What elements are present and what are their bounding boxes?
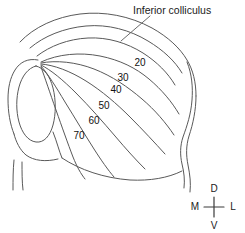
ventromedial-tail — [22, 162, 23, 190]
contour-label-70: 70 — [73, 130, 85, 141]
contour-label-30: 30 — [117, 72, 129, 83]
compass-label-dorsal: D — [210, 183, 217, 194]
contour-label-40: 40 — [110, 84, 122, 95]
nucleus-oval — [17, 66, 56, 142]
dorsal-nested-arcs-group — [30, 26, 182, 85]
contour-label-50: 50 — [98, 100, 110, 111]
nucleus-ventral-connector — [53, 132, 62, 158]
contour-label-20: 20 — [134, 57, 146, 68]
orientation-compass: D V M L — [191, 183, 236, 231]
figure-canvas: Inferior colliculus 20 30 40 50 60 70 D … — [0, 0, 245, 233]
ventromedial-hook — [14, 134, 58, 161]
inferior-colliculus-figure: Inferior colliculus 20 30 40 50 60 70 D … — [0, 0, 245, 233]
figure-title-label: Inferior colliculus — [133, 4, 211, 16]
compass-label-lateral: L — [230, 201, 236, 212]
adjacent-nucleus-group — [8, 59, 62, 190]
compass-label-medial: M — [191, 201, 199, 212]
ventromedial-tail-outer — [13, 160, 14, 190]
right-lateral-outer-boundary — [187, 96, 196, 192]
compass-label-ventral: V — [211, 220, 218, 231]
right-lateral-inner-boundary — [181, 62, 193, 188]
isofrequency-contours-group — [41, 54, 179, 179]
annotation-leader-line — [121, 16, 150, 41]
ventral-boundary — [62, 158, 182, 180]
left-structure-outer-arc — [8, 59, 38, 134]
contour-label-60: 60 — [88, 115, 100, 126]
